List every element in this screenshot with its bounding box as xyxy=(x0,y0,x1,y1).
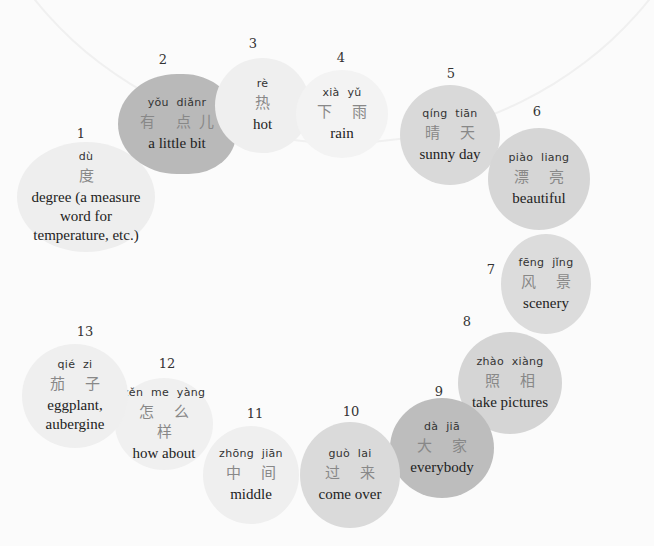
item-number-2: 2 xyxy=(148,52,178,67)
vocab-bubble-6[interactable]: piào liang 漂 亮 beautiful xyxy=(488,128,590,230)
pinyin: rè xyxy=(257,77,269,90)
item-number-4: 4 xyxy=(326,50,356,65)
english-meaning: sunny day xyxy=(419,145,480,164)
hanzi: 晴 天 xyxy=(425,123,484,143)
vocab-bubble-9[interactable]: dà jiā 大 家 everybody xyxy=(390,398,494,498)
vocab-bubble-10[interactable]: guò lai 过 来 come over xyxy=(300,422,400,528)
english-meaning: middle xyxy=(230,485,272,504)
hanzi: 风 景 xyxy=(521,272,580,292)
hanzi: 中 间 xyxy=(226,463,285,483)
item-number-11: 11 xyxy=(240,406,270,421)
item-number-5: 5 xyxy=(436,66,466,81)
hanzi: 照 相 xyxy=(485,371,544,391)
item-number-6: 6 xyxy=(522,104,552,119)
english-meaning: hot xyxy=(253,115,272,134)
pinyin: zhào xiàng xyxy=(477,355,544,368)
english-meaning: come over xyxy=(319,485,382,504)
pinyin: fēng jǐng xyxy=(519,256,574,269)
vocab-bubble-7[interactable]: fēng jǐng 风 景 scenery xyxy=(501,234,591,334)
english-meaning: take pictures xyxy=(472,393,548,412)
vocab-bubble-12[interactable]: zěn me yàng 怎 么 样 how about xyxy=(115,378,213,470)
item-number-9: 9 xyxy=(424,384,454,399)
pinyin: guò lai xyxy=(328,447,371,460)
vocab-bubble-11[interactable]: zhōng jiān 中 间 middle xyxy=(203,426,299,524)
pinyin: qié zi xyxy=(58,358,93,371)
hanzi: 下 雨 xyxy=(317,102,376,122)
english-meaning: scenery xyxy=(523,294,569,313)
hanzi: 度 xyxy=(79,166,102,186)
pinyin: dà jiā xyxy=(424,420,460,433)
hanzi: 漂 亮 xyxy=(514,167,573,187)
pinyin: qíng tiān xyxy=(422,107,477,120)
english-meaning: rain xyxy=(330,124,353,143)
pinyin: zěn me yàng xyxy=(123,386,206,399)
hanzi: 怎 么 样 xyxy=(123,402,213,442)
hanzi: 有 点儿 xyxy=(140,112,222,132)
item-number-13: 13 xyxy=(70,324,100,339)
english-meaning: eggplant, aubergine xyxy=(30,396,120,434)
vocab-bubble-13[interactable]: qié zi 茄 子 eggplant, aubergine xyxy=(22,344,128,448)
english-meaning: degree (a measure word for temperature, … xyxy=(27,188,145,245)
item-number-3: 3 xyxy=(238,36,268,51)
vocab-bubble-5[interactable]: qíng tiān 晴 天 sunny day xyxy=(400,85,500,185)
english-meaning: a little bit xyxy=(148,134,206,153)
english-meaning: everybody xyxy=(410,458,473,477)
hanzi: 热 xyxy=(255,93,278,113)
vocab-bubble-4[interactable]: xià yǔ 下 雨 rain xyxy=(296,70,388,158)
english-meaning: how about xyxy=(133,444,196,463)
pinyin: piào liang xyxy=(509,151,570,164)
hanzi: 大 家 xyxy=(417,436,476,456)
pinyin: dù xyxy=(79,150,94,163)
english-meaning: beautiful xyxy=(512,189,565,208)
item-number-8: 8 xyxy=(452,314,482,329)
hanzi: 过 来 xyxy=(325,463,384,483)
pinyin: zhōng jiān xyxy=(219,447,283,460)
pinyin: xià yǔ xyxy=(322,86,361,99)
item-number-10: 10 xyxy=(336,404,366,419)
pinyin: yǒu diǎnr xyxy=(148,96,207,109)
hanzi: 茄 子 xyxy=(50,374,109,394)
item-number-12: 12 xyxy=(152,356,182,371)
item-number-1: 1 xyxy=(66,126,96,141)
